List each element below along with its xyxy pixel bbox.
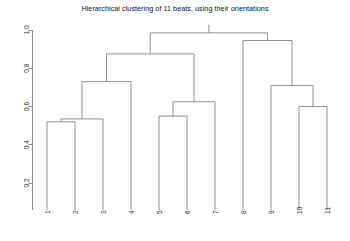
dendrogram-link	[243, 41, 292, 210]
dendrogram-link	[107, 54, 195, 102]
leaf-label-9: 9	[268, 210, 275, 214]
y-tick-label: 0.6	[23, 102, 30, 111]
leaf-label-7: 7	[212, 210, 219, 214]
leaf-label-5: 5	[156, 210, 163, 214]
dendrogram-link	[299, 107, 327, 211]
y-tick-label: 0.4	[23, 140, 30, 149]
dendrogram-link	[82, 82, 131, 210]
y-tick-label: 1.0	[23, 25, 30, 34]
dendrogram-link	[159, 116, 187, 210]
leaf-label-8: 8	[240, 210, 247, 214]
y-tick-label: 0.2	[23, 178, 30, 187]
leaf-label-11: 11	[324, 207, 331, 214]
dendrogram-link	[173, 102, 215, 210]
leaf-label-4: 4	[128, 210, 135, 214]
dendrogram-link	[47, 122, 75, 210]
leaf-label-3: 3	[100, 210, 107, 214]
dendrogram-links	[47, 25, 327, 210]
leaf-label-6: 6	[184, 210, 191, 214]
dendrogram-canvas: 1.00.80.60.40.2 1234567891011	[0, 0, 350, 241]
dendrogram-link	[271, 85, 313, 210]
dendrogram-plot: Hierarchical clustering of 11 beats, usi…	[0, 0, 350, 241]
leaf-label-1: 1	[44, 210, 51, 214]
leaf-label-10: 10	[296, 206, 303, 214]
y-axis: 1.00.80.60.40.2	[23, 25, 33, 210]
dendrogram-link	[150, 33, 267, 54]
dendrogram-link	[61, 119, 103, 210]
y-tick-label: 0.8	[23, 63, 30, 72]
leaf-label-2: 2	[72, 210, 79, 214]
